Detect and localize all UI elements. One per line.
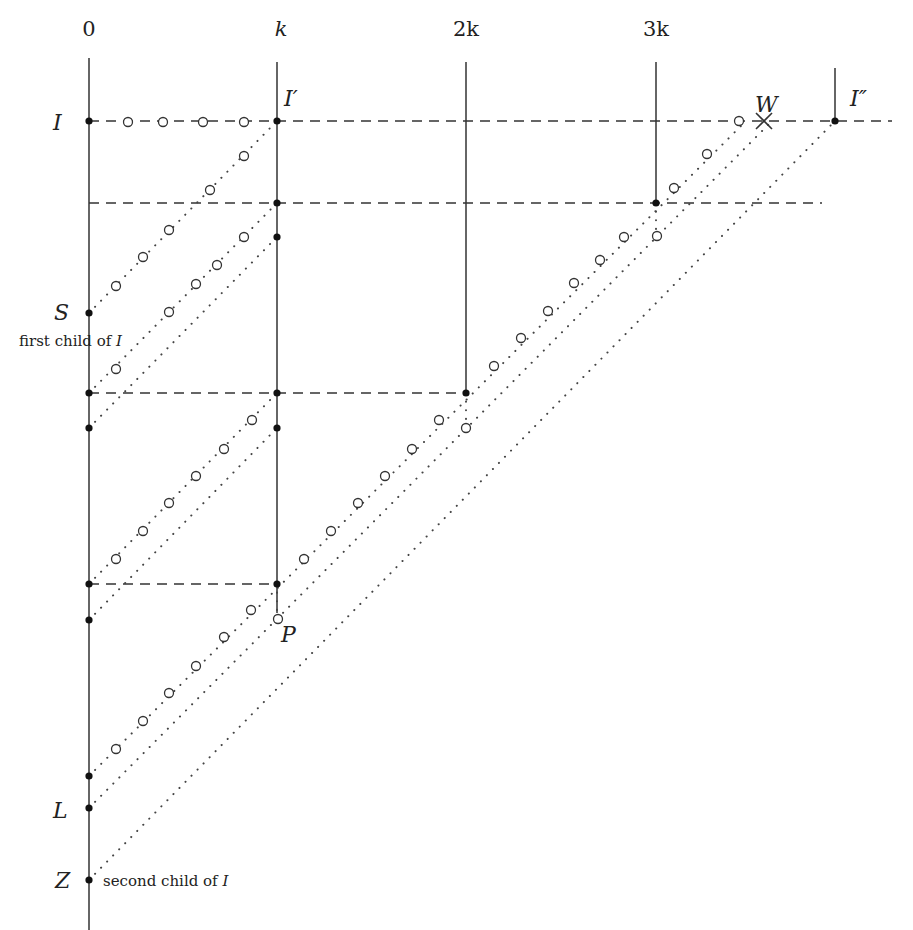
open-circle <box>735 117 744 126</box>
open-circle <box>165 499 174 508</box>
label-l: L <box>52 798 68 823</box>
open-circle <box>165 226 174 235</box>
open-circle <box>112 555 121 564</box>
open-circle <box>165 308 174 317</box>
open-circle <box>192 662 201 671</box>
open-circle <box>139 253 148 262</box>
point <box>273 233 280 240</box>
open-circle <box>240 233 249 242</box>
open-circle <box>703 150 712 159</box>
open-circle <box>408 445 417 454</box>
axis-label-2k: 2k <box>453 17 479 41</box>
diagonal-l-to-w <box>89 121 772 808</box>
diagonal-long-circles <box>89 121 746 776</box>
open-circle <box>139 717 148 726</box>
vertical-lines <box>89 58 835 930</box>
annotation-second-child-var: I <box>221 872 229 890</box>
open-circle <box>517 334 526 343</box>
label-w: W <box>755 92 780 117</box>
point <box>273 580 280 587</box>
annotation-first-child-text: first child of <box>19 332 116 350</box>
point-i-double-prime <box>831 117 838 124</box>
point <box>462 389 469 396</box>
point <box>652 199 659 206</box>
open-circle <box>159 118 168 127</box>
open-circle <box>165 689 174 698</box>
open-circle <box>240 118 249 127</box>
point <box>273 199 280 206</box>
open-circle <box>248 416 257 425</box>
label-z: Z <box>54 868 71 893</box>
open-circle <box>435 416 444 425</box>
open-circle <box>206 186 215 195</box>
open-circle <box>620 233 629 242</box>
point-i <box>85 117 92 124</box>
point <box>85 389 92 396</box>
open-circle <box>670 184 679 193</box>
open-circle <box>192 280 201 289</box>
label-i: I <box>52 110 63 135</box>
point-l <box>85 804 92 811</box>
open-circle <box>300 555 309 564</box>
open-circle <box>112 365 121 374</box>
open-circle <box>327 527 336 536</box>
annotation-second-child-text: second child of <box>103 872 222 890</box>
open-circle <box>570 279 579 288</box>
open-circle <box>220 445 229 454</box>
label-p: P <box>280 622 297 647</box>
point <box>85 424 92 431</box>
open-circle <box>220 633 229 642</box>
axis-label-k: k <box>275 17 288 41</box>
label-s: S <box>54 300 69 325</box>
open-circle <box>213 261 222 270</box>
open-circle <box>462 424 471 433</box>
open-circle <box>381 472 390 481</box>
point-i-prime <box>273 117 280 124</box>
point <box>273 389 280 396</box>
open-circle <box>354 499 363 508</box>
annotation-second-child: second child of I <box>103 872 229 890</box>
annotation-first-child: first child of I <box>19 332 123 350</box>
point <box>85 580 92 587</box>
open-circle <box>240 152 249 161</box>
open-circle <box>192 472 201 481</box>
open-circles <box>112 117 744 754</box>
open-circle <box>112 745 121 754</box>
open-circle <box>653 232 662 241</box>
point-s <box>85 309 92 316</box>
diagram-canvas: 0 k 2k 3k <box>0 0 913 930</box>
open-circle <box>247 606 256 615</box>
open-circle <box>544 307 553 316</box>
annotation-first-child-var: I <box>115 332 123 350</box>
axis-labels: 0 k 2k 3k <box>82 17 669 41</box>
diagonal-d <box>89 428 277 620</box>
open-circle <box>199 118 208 127</box>
point-labels: I I′ W I″ S P L Z <box>52 86 868 893</box>
open-circle <box>112 282 121 291</box>
diagonal-z-to-i-double-prime <box>89 121 835 880</box>
point <box>273 424 280 431</box>
point <box>85 616 92 623</box>
point-z <box>85 876 92 883</box>
axis-label-0: 0 <box>82 17 95 41</box>
label-i-prime: I′ <box>283 86 298 111</box>
open-circle <box>139 527 148 536</box>
open-circle <box>490 362 499 371</box>
open-circle <box>596 256 605 265</box>
open-circle <box>124 118 133 127</box>
point <box>85 772 92 779</box>
label-i-double-prime: I″ <box>849 86 868 111</box>
dotted-diagonals <box>89 121 835 880</box>
axis-label-3k: 3k <box>643 17 669 41</box>
filled-points <box>85 117 838 883</box>
